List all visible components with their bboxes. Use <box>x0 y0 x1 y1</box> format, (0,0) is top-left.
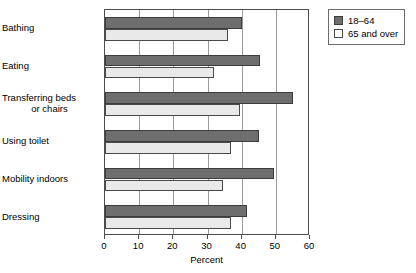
legend-label: 18–64 <box>348 15 374 26</box>
bar <box>105 205 247 217</box>
x-tick-label: 0 <box>89 240 119 251</box>
legend-item: 65 and over <box>334 27 398 40</box>
gridline-50 <box>276 10 277 234</box>
legend-swatch-65-and-over-icon <box>334 29 343 38</box>
gridline-20 <box>173 10 174 234</box>
category-label: Using toilet <box>2 135 97 146</box>
x-tick <box>104 235 105 239</box>
bar <box>105 55 260 67</box>
x-tick-label: 40 <box>226 240 256 251</box>
bar <box>105 217 231 229</box>
x-axis-title: Percent <box>104 254 309 265</box>
bar <box>105 180 223 192</box>
plot-inner <box>105 10 308 234</box>
category-label: Transferring bedsor chairs <box>2 92 97 114</box>
x-tick-label: 60 <box>294 240 324 251</box>
legend-item: 18–64 <box>334 14 398 27</box>
bar <box>105 104 240 116</box>
category-label-line: or chairs <box>2 103 97 114</box>
legend-label: 65 and over <box>348 28 398 39</box>
x-tick-label: 20 <box>157 240 187 251</box>
category-label: Dressing <box>2 211 97 222</box>
legend-swatch-18-64-icon <box>334 16 343 25</box>
chart-legend: 18–64 65 and over <box>328 9 405 45</box>
bar-chart: BathingEatingTransferring bedsor chairsU… <box>0 0 416 273</box>
bar <box>105 168 274 180</box>
category-label: Mobility indoors <box>2 173 97 184</box>
category-label-line: Transferring beds <box>2 92 97 103</box>
bar <box>105 92 293 104</box>
gridline-40 <box>242 10 243 234</box>
x-tick <box>138 235 139 239</box>
plot-area <box>104 9 309 235</box>
gridline-30 <box>208 10 209 234</box>
x-tick-label: 10 <box>123 240 153 251</box>
x-tick-label: 30 <box>192 240 222 251</box>
category-label: Bathing <box>2 22 97 33</box>
x-tick <box>241 235 242 239</box>
bar <box>105 130 259 142</box>
x-tick-label: 50 <box>260 240 290 251</box>
bar <box>105 17 242 29</box>
bar <box>105 67 214 79</box>
category-label: Eating <box>2 60 97 71</box>
x-tick <box>172 235 173 239</box>
bar <box>105 142 231 154</box>
bar <box>105 29 228 41</box>
category-axis-labels: BathingEatingTransferring bedsor chairsU… <box>0 9 100 235</box>
x-tick <box>309 235 310 239</box>
gridline-10 <box>139 10 140 234</box>
x-tick <box>207 235 208 239</box>
x-tick <box>275 235 276 239</box>
